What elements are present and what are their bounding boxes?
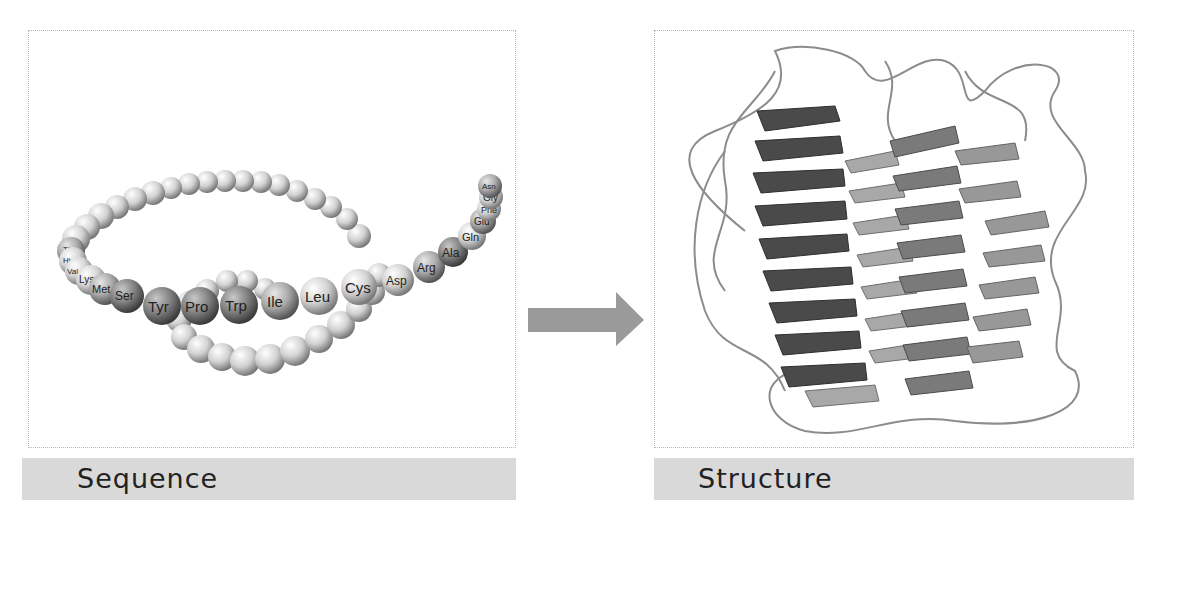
helix-dark: [753, 106, 867, 387]
right-arrow-icon: [528, 292, 644, 348]
helix-light-right: [955, 143, 1049, 363]
svg-text:Met: Met: [92, 283, 110, 295]
amino-acid-chain-illustration: Thr His Val Lys Met Ser Tyr Pro Trp Ile …: [29, 31, 515, 447]
protein-helix-bundle-illustration: [655, 31, 1133, 447]
structure-caption-bar: Structure: [654, 458, 1134, 500]
svg-text:Asn: Asn: [482, 182, 496, 191]
svg-text:Val: Val: [67, 267, 78, 276]
upper-ring-beads: [62, 170, 371, 253]
loop-regions: [689, 47, 1086, 433]
svg-text:Ile: Ile: [267, 293, 283, 310]
svg-text:Trp: Trp: [225, 297, 247, 314]
svg-text:Leu: Leu: [305, 288, 330, 305]
sequence-caption-bar: Sequence: [22, 458, 516, 500]
svg-text:Pro: Pro: [185, 298, 208, 315]
svg-text:Asp: Asp: [386, 274, 407, 288]
svg-text:Ser: Ser: [115, 289, 134, 303]
svg-text:Cys: Cys: [345, 279, 371, 296]
sequence-panel: Thr His Val Lys Met Ser Tyr Pro Trp Ile …: [28, 30, 516, 448]
structure-panel: [654, 30, 1134, 448]
svg-text:Arg: Arg: [417, 261, 436, 275]
svg-text:Gln: Gln: [462, 231, 479, 243]
svg-text:Tyr: Tyr: [148, 298, 169, 315]
sequence-caption: Sequence: [77, 458, 218, 500]
svg-text:Ala: Ala: [442, 246, 460, 260]
structure-caption: Structure: [698, 458, 833, 500]
